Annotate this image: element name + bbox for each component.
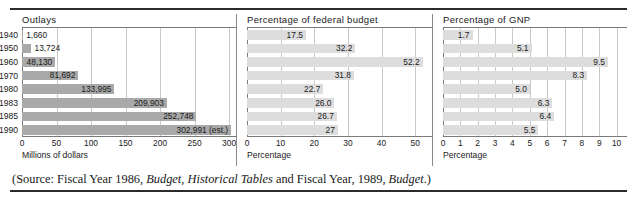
bar-row: 17.5 [247, 28, 432, 42]
axis-tick: 4 [510, 138, 515, 148]
bar [247, 57, 423, 67]
category-label: 1960 [0, 57, 18, 67]
x-axis-label-federal-budget: Percentage [247, 150, 432, 160]
category-label: 1940 [0, 30, 18, 40]
bar-row: 197081,692 [22, 69, 236, 83]
bar [247, 125, 338, 135]
source-italic-budget: Budget [389, 172, 424, 186]
axis-tick: 50 [411, 138, 420, 148]
bar-row: 1983209,903 [22, 96, 236, 110]
bar-track: 133,995 [22, 82, 236, 96]
axis-tick: 40 [377, 138, 386, 148]
plot-area-gnp: 1.75.19.58.35.06.36.45.5 [443, 27, 627, 136]
bar-row: 6.3 [443, 96, 627, 110]
axis-tick: 9 [597, 138, 602, 148]
bar-value-label: 48,130 [27, 57, 53, 67]
bar-rows-federal-budget: 17.532.252.231.822.726.026.727 [247, 28, 432, 137]
bar-value-label: 31.8 [335, 70, 351, 80]
bar-track: 302,991 (est.) [22, 123, 236, 137]
bar-row: 5.5 [443, 123, 627, 137]
bar [22, 44, 31, 54]
bar-track: 22.7 [247, 82, 432, 96]
bar-row: 1990302,991 (est.) [22, 123, 236, 137]
bar [22, 30, 23, 40]
source-suffix: .) [424, 172, 431, 186]
bar-track: 6.4 [443, 110, 627, 124]
bar-value-label: 1.7 [458, 30, 470, 40]
bar-track: 6.3 [443, 96, 627, 110]
bar-track: 5.1 [443, 42, 627, 56]
axis-tick: 150 [119, 138, 133, 148]
category-label: 1970 [0, 71, 18, 81]
bar-row: 1980133,995 [22, 82, 236, 96]
bar-track: 13,724 [22, 42, 236, 56]
source-middle: and Fiscal Year, 1989, [273, 172, 389, 186]
axis-tick: 10 [276, 138, 285, 148]
chart-title-gnp: Percentage of GNP [443, 14, 627, 27]
bar-row: 27 [247, 123, 432, 137]
bar-row: 9.5 [443, 55, 627, 69]
bar-track: 1.7 [443, 28, 627, 42]
chart-panel-outlays: Outlays 19401,660195013,724196048,130197… [10, 14, 236, 166]
bar-value-label: 52.2 [403, 57, 419, 67]
category-label: 1950 [0, 43, 18, 53]
source-prefix: (Source: Fiscal Year 1986, [12, 172, 146, 186]
category-label: 1980 [0, 84, 18, 94]
axis-tick: 20 [310, 138, 319, 148]
plot-wrap-federal-budget: 17.532.252.231.822.726.026.727 010203040… [247, 27, 432, 160]
axis-tick: 100 [84, 138, 98, 148]
chart-panels: Outlays 19401,660195013,724196048,130197… [10, 14, 627, 166]
category-label: 1985 [0, 111, 18, 121]
bar-value-label: 5.0 [515, 84, 527, 94]
bar-row: 6.4 [443, 110, 627, 124]
bar-value-label: 22.7 [304, 84, 320, 94]
bar-row: 5.1 [443, 42, 627, 56]
bar-row: 195013,724 [22, 42, 236, 56]
bar-track: 26.7 [247, 110, 432, 124]
bar-row: 1.7 [443, 28, 627, 42]
bar [443, 57, 608, 67]
bar-value-label: 17.5 [287, 30, 303, 40]
bar-value-label: 13,724 [34, 43, 60, 53]
bar-track: 252,748 [22, 110, 236, 124]
bar-track: 209,903 [22, 96, 236, 110]
bar-track: 8.3 [443, 69, 627, 83]
bar-row: 1985252,748 [22, 110, 236, 124]
top-rule [10, 8, 627, 10]
bar-row: 52.2 [247, 55, 432, 69]
bar-row: 22.7 [247, 82, 432, 96]
axis-tick: 1 [458, 138, 463, 148]
axis-tick: 300 [222, 138, 236, 148]
plot-area-outlays: 19401,660195013,724196048,130197081,6921… [22, 27, 236, 136]
bar-rows-gnp: 1.75.19.58.35.06.36.45.5 [443, 28, 627, 137]
bar-value-label: 302,991 (est.) [176, 125, 228, 135]
axis-tick: 5 [527, 138, 532, 148]
bar-track: 1,660 [22, 28, 236, 42]
axis-tick: 8 [580, 138, 585, 148]
axis-tick: 0 [441, 138, 446, 148]
x-axis-label-gnp: Percentage [443, 150, 627, 160]
chart-panel-gnp: Percentage of GNP 1.75.19.58.35.06.36.45… [432, 14, 627, 166]
bar-track: 32.2 [247, 42, 432, 56]
plot-area-federal-budget: 17.532.252.231.822.726.026.727 [247, 27, 432, 136]
bar-value-label: 32.2 [336, 43, 352, 53]
bar-track: 81,692 [22, 69, 236, 83]
chart-title-federal-budget: Percentage of federal budget [247, 14, 432, 27]
chart-title-outlays: Outlays [22, 14, 236, 27]
bar-value-label: 209,903 [134, 98, 164, 108]
bar-rows-outlays: 19401,660195013,724196048,130197081,6921… [22, 28, 236, 137]
bar-track: 31.8 [247, 69, 432, 83]
bar-value-label: 9.5 [593, 57, 605, 67]
bar-row: 8.3 [443, 69, 627, 83]
bar-value-label: 6.3 [538, 98, 550, 108]
bar-value-label: 133,995 [81, 84, 111, 94]
x-axis-label-outlays: Millions of dollars [22, 150, 236, 160]
plot-wrap-gnp: 1.75.19.58.35.06.36.45.5 012345678910 Pe… [443, 27, 627, 160]
axis-tick: 6 [545, 138, 550, 148]
bar-value-label: 1,660 [26, 30, 47, 40]
source-note: (Source: Fiscal Year 1986, Budget, Histo… [12, 172, 431, 187]
bar-track: 27 [247, 123, 432, 137]
bar-track: 52.2 [247, 55, 432, 69]
bar-row: 196048,130 [22, 55, 236, 69]
bar-value-label: 252,748 [163, 111, 193, 121]
